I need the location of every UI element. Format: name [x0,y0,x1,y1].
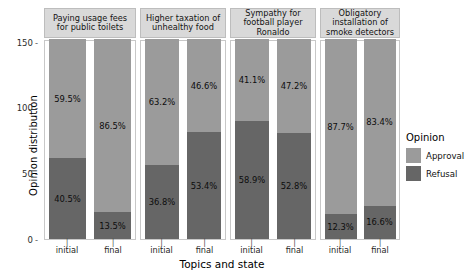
legend-item-approval[interactable]: Approval [406,148,470,163]
x-ticks-panel-3: |initial|final [230,240,316,262]
x-tick-initial: |initial [329,240,352,255]
x-tick-label: final [196,245,214,255]
bar-segment-approval[interactable]: 86.5% [94,39,131,212]
y-tick-50: 50- [22,169,38,179]
facet-strip-label: Higher taxation of unhealthy food [140,8,226,38]
bar-segment-refusal[interactable]: 52.8% [277,133,311,239]
x-tick-label: initial [150,245,173,255]
x-tick-label: initial [240,245,263,255]
stacked-bar[interactable]: 83.4%16.6% [364,39,396,239]
x-tick-initial: |initial [150,240,173,255]
stacked-bar[interactable]: 59.5%40.5% [49,39,86,239]
stacked-bar[interactable]: 86.5%13.5% [94,39,131,239]
legend-swatch-refusal [406,166,421,181]
x-tick-initial: |initial [56,240,79,255]
x-tick-label: final [371,245,389,255]
y-tick-mark: - [35,169,38,179]
bar-slot-initial: 63.2%36.8% [141,41,183,239]
bar-slot-initial: 87.7%12.3% [321,41,360,239]
bar-segment-approval[interactable]: 83.4% [364,39,396,206]
bar-slot-final: 47.2%52.8% [273,41,315,239]
stacked-bar[interactable]: 47.2%52.8% [277,39,311,239]
bar-slot-final: 83.4%16.6% [360,41,399,239]
y-tick-100: 100- [17,103,38,113]
facet-strip-label: Paying usage fees for public toilets [44,8,136,38]
bar-value-refusal: 53.4% [191,181,218,191]
legend: Opinion Approval Refusal [406,132,470,184]
x-tick-initial: |initial [240,240,263,255]
x-tick-label: initial [329,245,352,255]
bar-value-approval: 87.7% [327,122,354,132]
bar-segment-approval[interactable]: 87.7% [325,39,357,214]
bar-value-refusal: 13.5% [99,221,126,231]
bar-value-refusal: 40.5% [54,194,81,204]
bar-value-refusal: 52.8% [281,181,308,191]
facet-panel-2: Higher taxation of unhealthy food63.2%36… [140,8,226,240]
y-tick-0: 0- [28,235,39,245]
bar-value-approval: 47.2% [281,81,308,91]
legend-title: Opinion [406,132,470,143]
y-tick-label: 100 [17,103,33,113]
x-tick-final: |final [286,240,304,255]
x-ticks-panel-1: |initial|final [44,240,136,262]
stacked-bar[interactable]: 46.6%53.4% [187,39,221,239]
opinion-distribution-chart: Opinion distribution 0-50-100-150- Topic… [0,0,471,278]
bar-segment-refusal[interactable]: 16.6% [364,206,396,239]
bar-slot-final: 86.5%13.5% [90,41,135,239]
bar-segment-approval[interactable]: 41.1% [235,39,269,121]
facet-panel-3: Sympathy for football player Ronaldo41.1… [230,8,316,240]
bar-slot-initial: 59.5%40.5% [45,41,90,239]
bar-segment-refusal[interactable]: 12.3% [325,214,357,239]
bar-segment-refusal[interactable]: 58.9% [235,121,269,239]
x-ticks-panel-2: |initial|final [140,240,226,262]
bar-segment-approval[interactable]: 59.5% [49,39,86,158]
bar-value-refusal: 12.3% [327,222,354,232]
y-tick-label: 50 [22,169,33,179]
facet-plot-area: 41.1%58.9%47.2%52.8% [230,40,316,240]
bar-slot-initial: 41.1%58.9% [231,41,273,239]
stacked-bar[interactable]: 63.2%36.8% [145,39,179,239]
bar-value-approval: 59.5% [54,94,81,104]
legend-swatch-approval [406,148,421,163]
stacked-bar[interactable]: 87.7%12.3% [325,39,357,239]
x-tick-final: |final [104,240,122,255]
x-ticks-panel-4: |initial|final [320,240,400,262]
x-tick-final: |final [196,240,214,255]
facet-plot-area: 87.7%12.3%83.4%16.6% [320,40,400,240]
y-tick-mark: - [35,235,38,245]
bar-value-refusal: 58.9% [239,175,266,185]
x-tick-label: initial [56,245,79,255]
facet-strip-label: Sympathy for football player Ronaldo [230,8,316,38]
y-tick-150: 150- [17,38,38,48]
x-tick-label: final [104,245,122,255]
y-tick-mark: - [35,38,38,48]
bar-value-approval: 83.4% [366,117,393,127]
bar-value-approval: 63.2% [149,97,176,107]
bar-segment-refusal[interactable]: 53.4% [187,132,221,239]
facet-panel-1: Paying usage fees for public toilets59.5… [44,8,136,240]
stacked-bar[interactable]: 41.1%58.9% [235,39,269,239]
facet-plot-area: 63.2%36.8%46.6%53.4% [140,40,226,240]
legend-item-refusal[interactable]: Refusal [406,166,470,181]
y-tick-label: 0 [28,235,33,245]
bar-segment-approval[interactable]: 46.6% [187,39,221,132]
y-axis-ticks: 0-50-100-150- [0,0,44,278]
x-tick-final: |final [371,240,389,255]
bar-segment-refusal[interactable]: 13.5% [94,212,131,239]
legend-label-refusal: Refusal [426,169,457,179]
y-tick-label: 150 [17,38,33,48]
bar-slot-final: 46.6%53.4% [183,41,225,239]
bar-segment-approval[interactable]: 63.2% [145,39,179,165]
facet-strip-label: Obligatory installation of smoke detecto… [320,8,400,38]
x-tick-label: final [286,245,304,255]
bar-segment-refusal[interactable]: 40.5% [49,158,86,239]
bar-segment-approval[interactable]: 47.2% [277,39,311,133]
bar-value-approval: 86.5% [99,121,126,131]
facet-plot-area: 59.5%40.5%86.5%13.5% [44,40,136,240]
legend-label-approval: Approval [426,151,464,161]
bar-value-approval: 41.1% [239,75,266,85]
bar-segment-refusal[interactable]: 36.8% [145,165,179,239]
facet-panel-4: Obligatory installation of smoke detecto… [320,8,400,240]
bar-value-refusal: 36.8% [149,197,176,207]
bar-value-approval: 46.6% [191,81,218,91]
